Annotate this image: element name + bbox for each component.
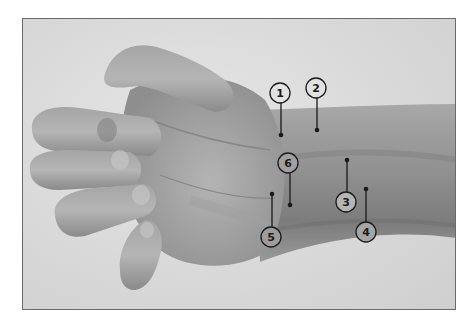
callout-1-label: 1 bbox=[276, 87, 284, 100]
forearm bbox=[255, 104, 456, 262]
callout-5-label: 5 bbox=[267, 231, 275, 244]
callout-4-label: 4 bbox=[362, 226, 370, 239]
callout-3-label: 3 bbox=[342, 196, 350, 209]
callout-6-label: 6 bbox=[284, 157, 292, 170]
callout-2-label: 2 bbox=[312, 82, 320, 95]
hand-photo: 1 2 3 4 5 6 bbox=[0, 0, 474, 325]
